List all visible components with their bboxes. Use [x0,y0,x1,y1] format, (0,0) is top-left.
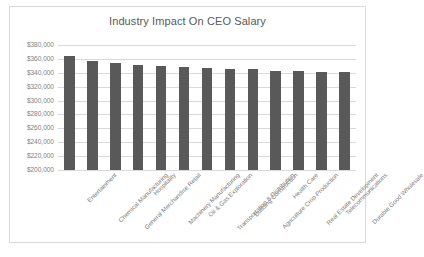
y-axis-tick-label: $200,000 [27,167,54,174]
bar [248,69,259,170]
y-axis-tick-label: $220,000 [27,153,54,160]
bar [202,68,213,170]
y-axis-tick-label: $260,000 [27,125,54,132]
bar [225,69,236,170]
bar [270,71,281,170]
bar [110,63,121,170]
chart-title: Industry Impact On CEO Salary [10,15,365,27]
y-axis-tick-label: $340,000 [27,70,54,77]
bar [133,65,144,170]
y-axis-tick-label: $280,000 [27,111,54,118]
x-axis: EntertainmentChemical ManufacturingGener… [58,170,356,244]
y-axis-tick-label: $360,000 [27,56,54,63]
y-axis-tick-label: $380,000 [27,42,54,49]
y-axis-tick-label: $240,000 [27,139,54,146]
plot-area [58,45,356,170]
bar [64,56,75,170]
y-axis-tick-label: $300,000 [27,97,54,104]
chart-container: Industry Impact On CEO Salary $380,000$3… [9,6,366,243]
y-axis-tick-label: $320,000 [27,83,54,90]
bar [316,72,327,170]
bar [156,66,167,170]
x-axis-tick-label: Entertainment [87,172,119,204]
bar [339,72,350,170]
bar [293,71,304,170]
bar [87,61,98,170]
bar [179,67,190,170]
bar-series [58,45,356,170]
y-axis: $380,000$360,000$340,000$320,000$300,000… [10,45,54,170]
